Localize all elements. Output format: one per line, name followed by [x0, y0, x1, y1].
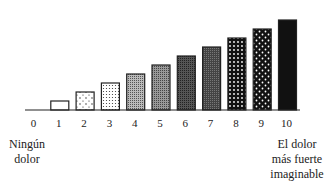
bar-5 [152, 65, 170, 110]
bar-2 [76, 92, 94, 110]
bar-3 [101, 83, 119, 110]
bar-10 [279, 20, 297, 110]
bar-8 [228, 38, 246, 110]
x-tick-label: 9 [251, 117, 271, 129]
x-tick-label: 0 [24, 117, 44, 129]
right-anchor-label: El dolor más fuerte imaginable [263, 137, 331, 182]
x-tick-label: 6 [175, 117, 195, 129]
bar-9 [253, 29, 271, 110]
x-tick-label: 8 [226, 117, 246, 129]
bar-4 [127, 74, 145, 110]
x-tick-label: 5 [150, 117, 170, 129]
right-anchor-line2: más fuerte [263, 152, 331, 167]
x-tick-label: 4 [125, 117, 145, 129]
left-anchor-line1: Ningún [6, 137, 48, 152]
x-tick-label: 7 [201, 117, 221, 129]
x-tick-label: 3 [99, 117, 119, 129]
left-anchor-line2: dolor [6, 152, 48, 167]
x-tick-label: 2 [74, 117, 94, 129]
x-tick-label: 1 [49, 117, 69, 129]
right-anchor-line1: El dolor [263, 137, 331, 152]
left-anchor-label: Ningún dolor [6, 137, 48, 167]
x-tick-label: 10 [277, 117, 297, 129]
right-anchor-line3: imaginable [263, 167, 331, 182]
bar-6 [177, 56, 195, 110]
bar-1 [51, 101, 69, 110]
bar-7 [203, 47, 221, 110]
